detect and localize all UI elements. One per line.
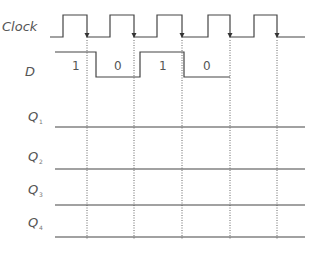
svg-text:3: 3 bbox=[39, 191, 43, 198]
d-value-2: 0 bbox=[114, 59, 122, 73]
d-value-4: 0 bbox=[203, 59, 211, 73]
q2-label: Q 2 bbox=[28, 149, 43, 165]
svg-text:2: 2 bbox=[39, 158, 43, 165]
d-value-1: 1 bbox=[72, 59, 80, 73]
q-baselines bbox=[55, 127, 305, 237]
timing-diagram: Clock D Q 1 Q 2 Q 3 Q 4 1 0 1 0 bbox=[0, 0, 319, 253]
q1-label: Q 1 bbox=[28, 109, 43, 125]
svg-text:1: 1 bbox=[39, 118, 43, 125]
q4-label: Q 4 bbox=[28, 215, 43, 231]
svg-text:4: 4 bbox=[39, 224, 43, 231]
svg-text:Q: Q bbox=[28, 109, 38, 124]
q3-label: Q 3 bbox=[28, 182, 43, 198]
clock-label: Clock bbox=[2, 19, 38, 34]
svg-text:Q: Q bbox=[28, 182, 38, 197]
svg-text:Q: Q bbox=[28, 149, 38, 164]
d-value-3: 1 bbox=[159, 59, 167, 73]
svg-text:Q: Q bbox=[28, 215, 38, 230]
d-label: D bbox=[25, 64, 35, 79]
